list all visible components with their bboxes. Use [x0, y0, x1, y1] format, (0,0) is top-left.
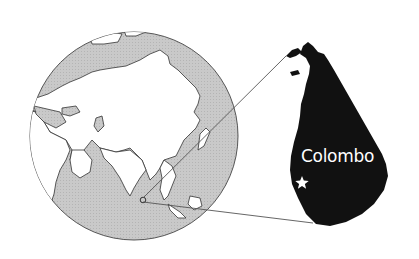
- city-label-colombo: Colombo: [301, 146, 374, 166]
- landmass-madagascar: [58, 214, 66, 228]
- inset-mannar-island: [290, 70, 300, 76]
- inset-jaffna-peninsula: [286, 48, 302, 58]
- landmass-north: [90, 32, 122, 44]
- inset-sri-lanka: [290, 42, 388, 226]
- map-canvas: [0, 0, 419, 259]
